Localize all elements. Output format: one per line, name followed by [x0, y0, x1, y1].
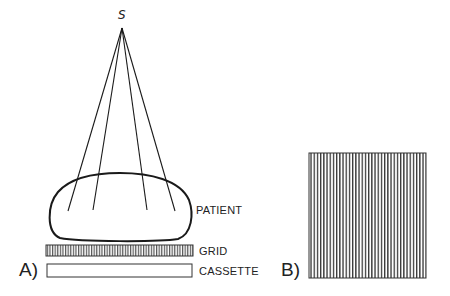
- panel-b-label: B): [281, 259, 300, 281]
- beam-line: [122, 28, 147, 210]
- beam-line: [68, 28, 122, 211]
- patient-outline: [50, 173, 192, 241]
- grid-label: GRID: [199, 245, 227, 257]
- grid-a: [46, 245, 193, 256]
- beam-line: [93, 28, 122, 210]
- cassette: [47, 264, 192, 277]
- panel-a-label: A): [19, 259, 38, 281]
- grid-b: [309, 153, 426, 278]
- patient-label: PATIENT: [196, 204, 242, 216]
- xray-beams: [68, 28, 175, 211]
- cassette-label: CASSETTE: [199, 265, 259, 277]
- beam-line: [122, 28, 175, 211]
- source-label: S: [118, 8, 126, 22]
